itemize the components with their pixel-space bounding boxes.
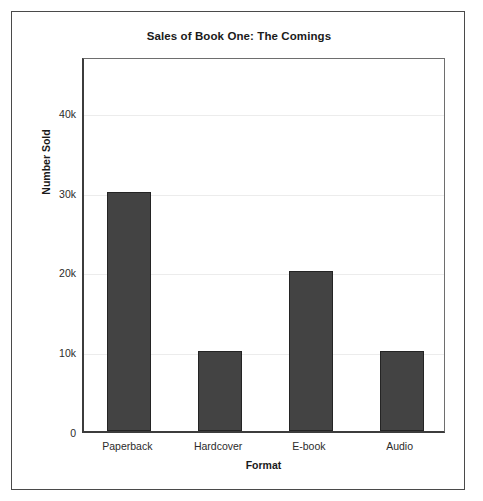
- figure-frame: Sales of Book One: The Comings Number So…: [11, 11, 465, 490]
- chart-title: Sales of Book One: The Comings: [12, 30, 466, 42]
- y-axis-tick-label: 40k: [30, 109, 76, 120]
- x-axis-tick-label: Audio: [340, 440, 460, 452]
- y-axis-tick-label: 30k: [30, 188, 76, 199]
- bar-e-book: [289, 271, 333, 431]
- y-axis-tick-label: 0: [30, 428, 76, 439]
- bar-hardcover: [198, 351, 242, 431]
- y-axis-tick-label: 20k: [30, 268, 76, 279]
- x-axis-title: Format: [82, 459, 445, 471]
- y-axis-tick-label: 10k: [30, 348, 76, 359]
- bar-paperback: [107, 192, 151, 431]
- gridline: [84, 115, 444, 116]
- bar-audio: [380, 351, 424, 431]
- y-axis-tick-labels: 010k20k30k40k: [24, 58, 76, 433]
- plot-area: [82, 58, 445, 433]
